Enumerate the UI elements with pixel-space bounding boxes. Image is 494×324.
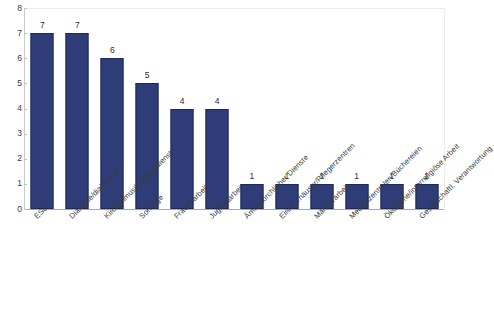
bar-slot: 4 (165, 8, 200, 209)
bar-value-label: 7 (75, 21, 80, 30)
bar[interactable] (206, 109, 229, 210)
y-axis-tick-label: 6 (4, 54, 22, 63)
bar[interactable] (66, 33, 89, 209)
bar-value-label: 6 (110, 46, 115, 55)
y-axis-tick-label: 8 (4, 4, 22, 13)
bar-slot: 4 (200, 8, 235, 209)
y-axis-tick-label: 1 (4, 179, 22, 188)
y-axis-tick-label: 2 (4, 154, 22, 163)
plot-frame-right (444, 8, 445, 210)
bar-value-label: 4 (180, 97, 185, 106)
y-axis-tick-labels: 012345678 (0, 0, 22, 215)
y-axis-tick-label: 3 (4, 129, 22, 138)
bar-slot: 7 (60, 8, 95, 209)
bar-slot: 1 (235, 8, 270, 209)
bar-value-label: 5 (145, 71, 150, 80)
bar-slot: 7 (25, 8, 60, 209)
bar-value-label: 7 (40, 21, 45, 30)
bar[interactable] (31, 33, 54, 209)
y-axis-tick-label: 5 (4, 79, 22, 88)
bar-value-label: 1 (354, 172, 359, 181)
bar-value-label: 4 (215, 97, 220, 106)
bar[interactable] (171, 109, 194, 210)
y-axis-tick-label: 4 (4, 104, 22, 113)
y-axis-tick-label: 7 (4, 29, 22, 38)
x-axis-category-labels: ESGDiakonie/diakonischKirchenmusik/Gotte… (0, 209, 453, 324)
bar-value-label: 1 (250, 172, 255, 181)
bar-slot: 1 (339, 8, 374, 209)
